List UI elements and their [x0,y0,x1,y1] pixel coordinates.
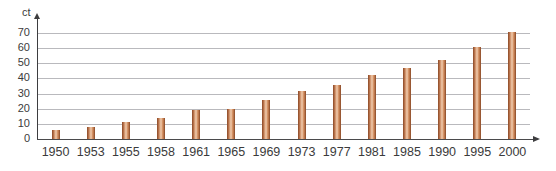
x-tick-label-1961: 1961 [182,145,210,160]
y-tick-label-40: 40 [18,72,30,83]
x-tick-label-1965: 1965 [217,145,245,160]
bar-1969 [262,100,270,139]
bar-2000 [508,32,516,139]
bar-1961 [192,110,200,139]
x-tick-label-1977: 1977 [323,145,351,160]
x-tick-label-1950: 1950 [42,145,70,160]
x-tick-label-1958: 1958 [147,145,175,160]
x-axis-tick-labels: 1950195319551958196119651969197319771981… [0,145,556,165]
bar-1950 [52,130,60,139]
x-tick-label-1953: 1953 [77,145,105,160]
bar-1981 [368,75,376,139]
x-tick-label-1973: 1973 [288,145,316,160]
y-tick-label-60: 60 [18,42,30,53]
bar-chart-figure: ct 010203040506070 195019531955195819611… [0,0,556,171]
x-tick-label-1990: 1990 [428,145,456,160]
bar-1958 [157,118,165,139]
bar-1973 [298,91,306,139]
bar-1953 [87,127,95,139]
bar-1955 [122,122,130,139]
x-tick-label-1981: 1981 [358,145,386,160]
y-tick-label-50: 50 [18,57,30,68]
y-tick-label-70: 70 [18,27,30,38]
y-tick-label-0: 0 [24,133,30,144]
bar-1995 [473,47,481,139]
bar-1985 [403,68,411,139]
x-tick-label-1995: 1995 [463,145,491,160]
x-axis-arrow-icon [533,136,540,142]
bar-1965 [227,109,235,139]
x-tick-label-2000: 2000 [499,145,527,160]
bar-1990 [438,60,446,139]
y-tick-label-30: 30 [18,88,30,99]
bar-1977 [333,85,341,140]
y-tick-label-20: 20 [18,103,30,114]
x-tick-label-1969: 1969 [253,145,281,160]
x-tick-label-1985: 1985 [393,145,421,160]
x-tick-label-1955: 1955 [112,145,140,160]
y-tick-label-10: 10 [18,118,30,129]
